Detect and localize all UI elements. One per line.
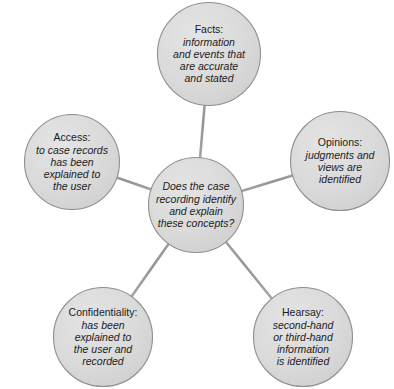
node-circle-facts[interactable] [158,3,261,106]
node-circle-group [25,3,390,387]
node-circle-access[interactable] [25,115,120,210]
node-circle-confidentiality[interactable] [54,288,153,387]
node-circle-hearsay[interactable] [254,288,353,387]
node-circle-hub[interactable] [149,158,244,253]
diagram-canvas [0,0,394,389]
node-circle-opinions[interactable] [291,112,390,211]
radial-concept-diagram: Does the case recording identify and exp… [0,0,394,389]
